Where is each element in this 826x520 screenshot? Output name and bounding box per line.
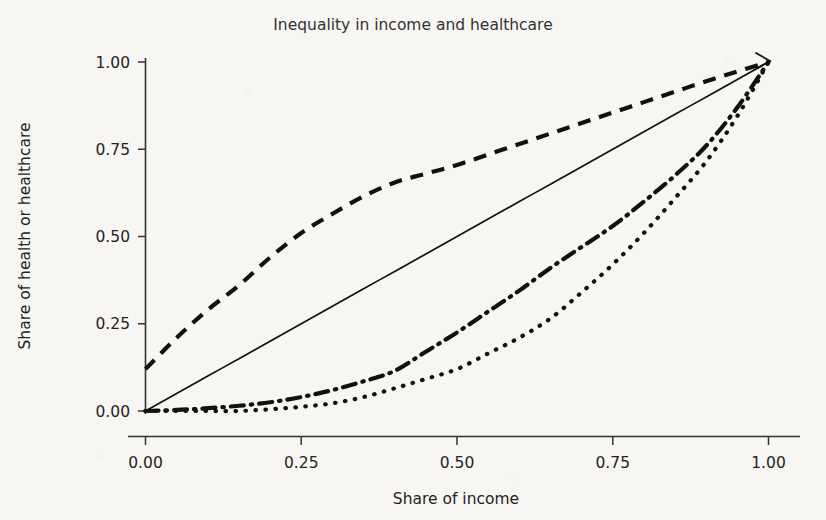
x-tick-label: 0.75 <box>595 454 630 472</box>
x-tick-label: 1.00 <box>751 454 786 472</box>
x-tick-label: 0.00 <box>128 454 163 472</box>
y-tick-label: 1.00 <box>95 54 130 72</box>
chart-title: Inequality in income and healthcare <box>273 16 552 34</box>
x-axis-title: Share of income <box>393 490 519 508</box>
chart-canvas: Inequality in income and healthcare 0.00… <box>0 0 826 520</box>
x-tick-label: 0.50 <box>440 454 475 472</box>
series-line-dashed <box>146 62 769 369</box>
y-tick-label: 0.00 <box>95 403 130 421</box>
x-axis: 0.000.250.500.751.00 Share of income <box>128 437 800 509</box>
chart-series-group <box>146 62 769 411</box>
y-tick-label: 0.25 <box>95 315 130 333</box>
x-tick-label: 0.25 <box>284 454 319 472</box>
series-line-solid <box>146 62 769 411</box>
y-axis-tick-labels: 0.000.250.500.751.00 <box>95 54 130 421</box>
y-tick-label: 0.50 <box>95 228 130 246</box>
y-axis: 0.000.250.500.751.00 Share of health or … <box>16 54 146 421</box>
x-axis-tick-labels: 0.000.250.500.751.00 <box>128 454 786 472</box>
chart-figure: Inequality in income and healthcare 0.00… <box>0 0 826 520</box>
y-axis-title: Share of health or healthcare <box>16 123 34 350</box>
x-axis-ticks <box>146 437 769 445</box>
y-tick-label: 0.75 <box>95 141 130 159</box>
